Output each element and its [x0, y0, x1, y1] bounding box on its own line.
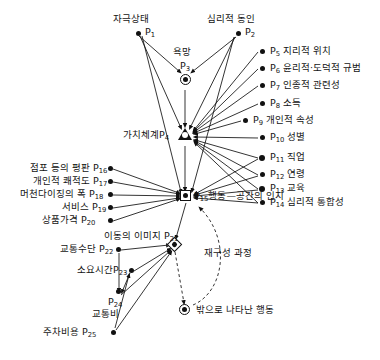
node-P1[interactable]: [136, 31, 141, 36]
label-P2-text: 심리적 동인: [207, 13, 255, 24]
label-P3: 욕망: [173, 47, 191, 57]
label-P22-text: 교통수단: [60, 243, 96, 254]
diagram-canvas: 자극상태 P1 심리적 동인 P2 욕망 P3 가치체계P4 P5 지리적 위치…: [0, 0, 380, 360]
label-P5: P5 지리적 위치: [270, 46, 331, 56]
label-P15-text: 행동—공간의 인지: [208, 190, 284, 201]
label-P11-text: 직업: [287, 151, 305, 162]
label-P9: P9 개인적 속성: [253, 115, 314, 125]
label-P21: 이동의 이미지 P21: [104, 231, 178, 241]
node-P17[interactable]: [108, 179, 113, 184]
label-P25-text: 주차비용: [43, 326, 79, 337]
label-P12: P12 연령: [270, 169, 305, 179]
node-P23[interactable]: [129, 268, 134, 273]
node-P6[interactable]: [260, 66, 265, 71]
node-P10[interactable]: [260, 135, 265, 140]
node-P5[interactable]: [260, 49, 265, 54]
label-P8: P8 소득: [270, 98, 301, 108]
node-P3[interactable]: [180, 74, 191, 85]
label-P12-text: 연령: [287, 168, 305, 179]
label-P16: 점포 등의 평판 P16: [30, 163, 107, 173]
label-P7: P7 인종적 관련성: [270, 80, 340, 90]
label-P2-code: P2: [245, 27, 255, 37]
label-P20-text: 상품가격: [42, 214, 78, 225]
label-P9-text: 개인적 속성: [266, 114, 314, 125]
label-P17-text: 개인적 쾌적도: [33, 175, 90, 186]
label-P22: 교통수단 P22: [60, 244, 113, 254]
label-P1-text: 자극상태: [113, 13, 149, 24]
label-P8-text: 소득: [283, 97, 301, 108]
label-P6: P6 윤리적·도덕적 규범: [270, 63, 361, 73]
node-P25[interactable]: [111, 330, 116, 335]
label-P4-text: 가치체계: [123, 129, 159, 140]
node-P2[interactable]: [236, 31, 241, 36]
label-P19-text: 서비스: [62, 201, 89, 212]
label-P23-text: 소요시간: [77, 264, 113, 275]
node-P9[interactable]: [243, 118, 248, 123]
label-manifest-behavior: 밖으로 나타난 행동: [196, 305, 274, 315]
annotation-feedback-text: 재구성 과정: [204, 247, 252, 258]
node-P18[interactable]: [108, 192, 113, 197]
label-P2: 심리적 동인: [207, 14, 255, 24]
node-P8[interactable]: [260, 101, 265, 106]
label-P15: P15행동—공간의 인지: [194, 191, 284, 201]
label-P18-text: 머천다이징의 폭: [20, 188, 86, 199]
label-P20: 상품가격 P20: [42, 215, 95, 225]
node-P11[interactable]: [259, 155, 265, 161]
label-P18: 머천다이징의 폭 P18: [20, 189, 103, 199]
node-P24[interactable]: [116, 289, 121, 294]
label-P25: 주차비용 P25: [43, 327, 96, 337]
label-P11: P11 직업: [270, 152, 305, 162]
label-P3-code: P3: [180, 61, 190, 71]
node-P19[interactable]: [108, 205, 113, 210]
label-P23: 소요시간P23: [77, 265, 127, 275]
node-P12[interactable]: [260, 172, 265, 177]
node-P7[interactable]: [260, 83, 265, 88]
node-P4[interactable]: [178, 128, 192, 140]
label-P13-text: 교육: [287, 182, 305, 193]
label-P24-code: P24: [108, 297, 122, 307]
node-manifest-behavior[interactable]: [179, 304, 190, 315]
label-P14-text: 심리적 통합성: [287, 196, 344, 207]
node-P22[interactable]: [116, 247, 121, 252]
label-P3-text: 욕망: [173, 46, 191, 57]
label-P24: 교통비: [92, 309, 119, 319]
label-manifest-behavior-text: 밖으로 나타난 행동: [196, 304, 274, 315]
label-P10-text: 성별: [287, 131, 305, 142]
label-P1: 자극상태: [113, 14, 149, 24]
node-P16[interactable]: [108, 166, 113, 171]
node-P15[interactable]: [180, 190, 191, 201]
label-P10: P10 성별: [270, 132, 305, 142]
label-P16-text: 점포 등의 평판: [30, 162, 90, 173]
label-P7-text: 인종적 관련성: [283, 79, 340, 90]
label-P17: 개인적 쾌적도 P17: [33, 176, 107, 186]
label-P4: 가치체계P4: [123, 130, 169, 140]
node-P20[interactable]: [108, 218, 113, 223]
label-P21-text: 이동의 이미지: [104, 230, 161, 241]
label-P19: 서비스 P19: [62, 202, 106, 212]
label-P5-text: 지리적 위치: [283, 45, 331, 56]
label-P6-text: 윤리적·도덕적 규범: [283, 62, 361, 73]
annotation-feedback: 재구성 과정: [204, 248, 252, 258]
label-P1-code: P1: [145, 27, 155, 37]
label-P24-text: 교통비: [92, 308, 119, 319]
